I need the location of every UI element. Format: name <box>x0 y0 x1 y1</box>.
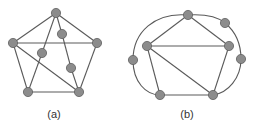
edge-left-bottom-left <box>13 43 28 92</box>
node-right <box>224 41 233 50</box>
node-bottom-left <box>23 87 32 96</box>
edge-inner-1-inner-3 <box>62 34 71 68</box>
node-inner-2 <box>37 48 46 57</box>
node-top <box>183 10 192 19</box>
node-inner-1 <box>57 29 66 38</box>
graph-a: (a) <box>8 8 101 120</box>
caption-a: (a) <box>47 108 60 120</box>
node-bottom-left <box>155 90 164 99</box>
node-right <box>92 38 101 47</box>
curved-edge <box>225 23 241 59</box>
curved-edge <box>133 60 160 95</box>
graph-diagram: (a) (b) <box>0 0 254 130</box>
edge-top-left <box>147 15 188 46</box>
graph-b: (b) <box>128 10 245 120</box>
node-upper-right <box>220 18 229 27</box>
node-far-left <box>128 55 137 64</box>
node-left <box>8 38 17 47</box>
curved-edge <box>213 59 241 95</box>
node-left <box>142 41 151 50</box>
edge-right-bottom-right <box>79 43 97 92</box>
edge-right-bottom-right <box>213 46 229 95</box>
node-bottom-right <box>74 87 83 96</box>
edge-top-inner-2 <box>42 13 56 53</box>
node-far-right <box>236 54 245 63</box>
node-bottom-right <box>208 90 217 99</box>
node-top <box>51 8 60 17</box>
edge-top-left <box>13 13 56 43</box>
edge-left-bottom-right <box>147 46 213 95</box>
caption-b: (b) <box>180 108 193 120</box>
edge-left-bottom-left <box>147 46 160 95</box>
node-inner-3 <box>66 63 75 72</box>
